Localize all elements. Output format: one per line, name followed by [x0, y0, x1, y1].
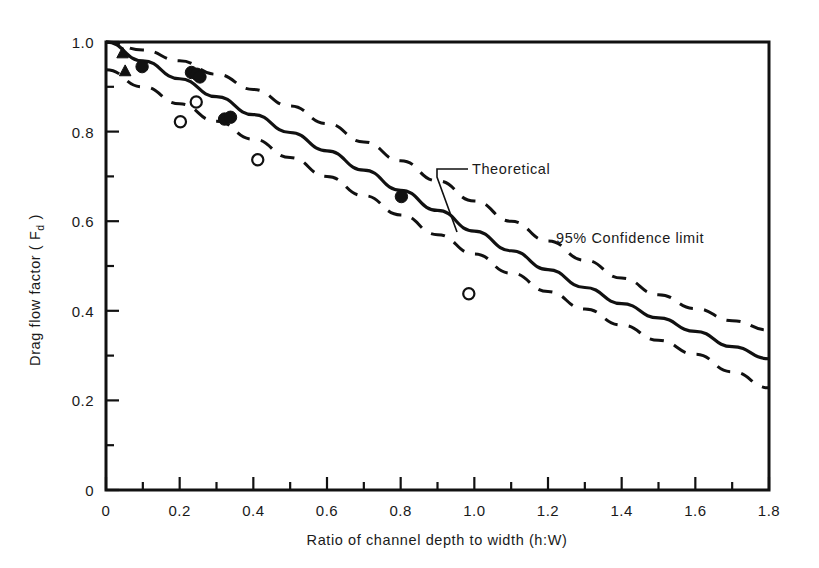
x-tick-label-2: 0.4: [242, 502, 264, 519]
x-tick-label-9: 1.8: [758, 502, 780, 519]
data-point-filled-triangle-1: [119, 65, 131, 76]
theoretical-leader-line: [437, 169, 468, 232]
drag-flow-factor-chart: 00.20.40.60.81.01.21.41.61.8 00.20.40.60…: [0, 0, 819, 568]
data-point-open-circle-10: [252, 154, 263, 165]
y-axis-title-tail: ): [27, 214, 43, 224]
x-tick-label-1: 0.2: [168, 502, 190, 519]
y-tick-label-3: 0.6: [72, 213, 94, 230]
x-tick-label-4: 0.8: [389, 502, 411, 519]
y-axis-tick-labels: 00.20.40.60.81.0: [72, 34, 94, 499]
plot-frame: [106, 42, 769, 490]
curve-theoretical: [106, 42, 769, 359]
data-point-filled-circle-9: [224, 111, 236, 123]
x-tick-label-8: 1.6: [684, 502, 706, 519]
x-axis-tick-labels: 00.20.40.60.81.01.21.41.61.8: [102, 502, 781, 519]
figure-container: 00.20.40.60.81.01.21.41.61.8 00.20.40.60…: [0, 0, 819, 568]
y-tick-label-5: 1.0: [72, 34, 94, 51]
data-curves: [106, 42, 769, 388]
x-tick-label-7: 1.4: [610, 502, 632, 519]
curve-95-confidence-limit-upper: [106, 42, 769, 330]
x-tick-label-5: 1.0: [463, 502, 485, 519]
data-point-filled-circle-5: [194, 71, 206, 83]
x-tick-label-6: 1.2: [537, 502, 559, 519]
y-tick-label-1: 0.2: [72, 392, 94, 409]
data-point-filled-circle-11: [395, 190, 407, 202]
data-point-filled-circle-2: [136, 60, 148, 72]
curve-95-confidence-limit-lower: [106, 70, 769, 388]
y-tick-label-2: 0.4: [72, 303, 94, 320]
confidence-limit-annotation-label: 95% Confidence limit: [556, 230, 704, 246]
data-point-open-circle-7: [191, 96, 202, 107]
theoretical-annotation-label: Theoretical: [472, 161, 550, 177]
data-point-open-circle-6: [175, 116, 186, 127]
y-axis-title: Drag flow factor ( Fd ): [27, 214, 46, 366]
x-tick-label-0: 0: [102, 502, 111, 519]
data-point-open-circle-12: [463, 288, 474, 299]
x-axis-title: Ratio of channel depth to width (h:W): [307, 532, 568, 548]
y-axis-title-group: Drag flow factor ( Fd ): [27, 214, 46, 366]
y-tick-label-0: 0: [85, 482, 94, 499]
y-axis-title-main: Drag flow factor ( F: [27, 231, 43, 366]
y-tick-label-4: 0.8: [72, 124, 94, 141]
x-tick-label-3: 0.6: [316, 502, 338, 519]
